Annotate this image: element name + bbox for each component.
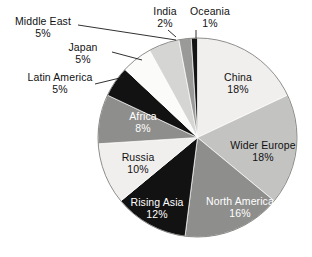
slice-pct-russia: 10% xyxy=(108,164,168,176)
slice-name-russia: Russia xyxy=(108,152,168,164)
pie-chart: China 18% Wider Europe 18% North America… xyxy=(0,0,312,257)
slice-label-africa: Africa 8% xyxy=(115,111,171,135)
slice-pct-wider-europe: 18% xyxy=(220,152,306,164)
slice-name-wider-europe: Wider Europe xyxy=(220,140,306,152)
slice-name-china: China xyxy=(205,72,271,84)
slice-label-china: China 18% xyxy=(205,72,271,96)
slice-label-wider-europe: Wider Europe 18% xyxy=(220,140,306,164)
slice-pct-africa: 8% xyxy=(115,123,171,135)
slice-label-north-america: North America 16% xyxy=(193,196,287,220)
slice-label-rising-asia: Rising Asia 12% xyxy=(119,197,195,221)
slice-label-latin-america: Latin America 5% xyxy=(22,72,98,96)
slice-pct-rising-asia: 12% xyxy=(119,209,195,221)
slice-pct-north-america: 16% xyxy=(193,208,287,220)
slice-label-russia: Russia 10% xyxy=(108,152,168,176)
slice-name-rising-asia: Rising Asia xyxy=(119,197,195,209)
slice-label-india: India 2% xyxy=(144,6,186,30)
slice-label-japan: Japan 5% xyxy=(58,42,108,66)
leader-line-india xyxy=(168,30,176,37)
slice-label-oceania: Oceania 1% xyxy=(183,6,237,30)
slice-pct-latin-america: 5% xyxy=(22,84,98,96)
slice-name-africa: Africa xyxy=(115,111,171,123)
slice-name-japan: Japan xyxy=(58,42,108,54)
slice-pct-japan: 5% xyxy=(58,54,108,66)
leader-line-japan xyxy=(112,52,142,60)
slice-pct-oceania: 1% xyxy=(183,18,237,30)
slice-name-oceania: Oceania xyxy=(183,6,237,18)
slice-label-middle-east: Middle East 5% xyxy=(7,16,79,40)
slice-pct-middle-east: 5% xyxy=(7,28,79,40)
slice-name-middle-east: Middle East xyxy=(7,16,79,28)
slice-name-latin-america: Latin America xyxy=(22,72,98,84)
slice-pct-china: 18% xyxy=(205,84,271,96)
slice-name-india: India xyxy=(144,6,186,18)
slice-pct-india: 2% xyxy=(144,18,186,30)
slice-name-north-america: North America xyxy=(193,196,287,208)
